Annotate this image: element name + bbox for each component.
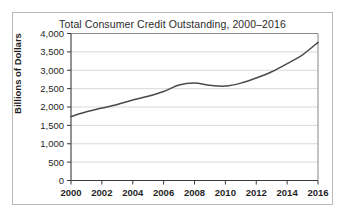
x-tick-label: 2016 (307, 187, 328, 198)
y-tick-label: 0 (59, 175, 64, 186)
x-tick-label: 2004 (122, 187, 144, 198)
y-tick-label: 1,000 (40, 138, 64, 149)
x-tick-label: 2006 (153, 187, 174, 198)
x-tick-label: 2014 (277, 187, 299, 198)
x-tick-label: 2000 (60, 187, 81, 198)
data-series-line (71, 42, 318, 116)
y-tick-label: 500 (48, 157, 64, 168)
y-tick-label: 3,000 (40, 65, 64, 76)
y-axis-tick-labels: 05001,0001,5002,0002,5003,0003,5004,000 (40, 28, 64, 186)
chart-svg: 05001,0001,5002,0002,5003,0003,5004,000 … (0, 0, 345, 219)
x-tick-label: 2012 (246, 187, 267, 198)
y-tick-label: 2,500 (40, 83, 64, 94)
x-tick-label: 2008 (184, 187, 205, 198)
y-tick-label: 1,500 (40, 120, 64, 131)
x-axis-tick-labels: 200020022004200620082010201220142016 (60, 187, 328, 198)
x-tick-label: 2010 (215, 187, 236, 198)
plot-area: 05001,0001,5002,0002,5003,0003,5004,000 … (0, 0, 345, 219)
y-tick-label: 3,500 (40, 46, 64, 57)
y-tick-label: 2,000 (40, 101, 64, 112)
x-tick-label: 2002 (91, 187, 112, 198)
y-tick-label: 4,000 (40, 28, 64, 39)
chart-figure: Total Consumer Credit Outstanding, 2000–… (0, 0, 345, 219)
